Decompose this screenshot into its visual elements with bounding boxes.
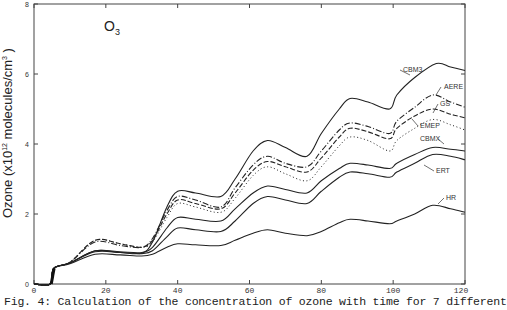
label-leader — [436, 87, 441, 95]
chart-axes: 02040608010012002468 — [25, 1, 468, 295]
y-tick-label: 0 — [25, 281, 29, 288]
plot-frame — [34, 4, 465, 284]
series-label-cbm3: CBM3 — [403, 66, 423, 73]
x-tick-label: 0 — [32, 286, 37, 295]
series-line-aere — [34, 95, 465, 285]
series-label-cbmx: CBMX — [420, 135, 441, 142]
chart-title: O3 — [104, 18, 120, 37]
series-label-gs: GS — [440, 100, 450, 107]
x-tick-label: 100 — [386, 286, 401, 295]
series-labels: CBM3AEREGSEMEPCBMXERTHR — [400, 66, 463, 204]
initial-rise — [51, 268, 54, 284]
series-line-hr — [34, 205, 465, 285]
series-label-ert: ERT — [436, 167, 451, 174]
chart-series — [34, 63, 465, 285]
series-label-hr: HR — [446, 194, 456, 201]
x-tick-label: 20 — [101, 286, 111, 295]
y-axis-label: Ozone (x1012 molecules/cm3 ) — [0, 48, 15, 218]
x-tick-label: 60 — [245, 286, 255, 295]
label-leader — [438, 198, 444, 204]
x-tick-label: 40 — [173, 286, 183, 295]
label-leader — [424, 165, 434, 171]
y-tick-label: 2 — [25, 211, 29, 218]
series-line-emep — [34, 119, 465, 285]
series-label-emep: EMEP — [420, 122, 440, 129]
x-tick-label: 80 — [317, 286, 327, 295]
figure-caption: Fig. 4: Calculation of the concentration… — [4, 295, 507, 308]
ozone-line-chart: 02040608010012002468 CBM3AEREGSEMEPCBMXE… — [0, 0, 470, 300]
label-leader — [412, 119, 418, 126]
series-line-cbmx — [34, 147, 465, 285]
x-tick-label: 120 — [454, 286, 469, 295]
y-tick-label: 6 — [25, 71, 29, 78]
series-line-gs — [34, 109, 465, 285]
series-label-aere: AERE — [444, 83, 463, 90]
y-tick-label: 8 — [25, 1, 29, 8]
y-tick-label: 4 — [25, 141, 29, 148]
